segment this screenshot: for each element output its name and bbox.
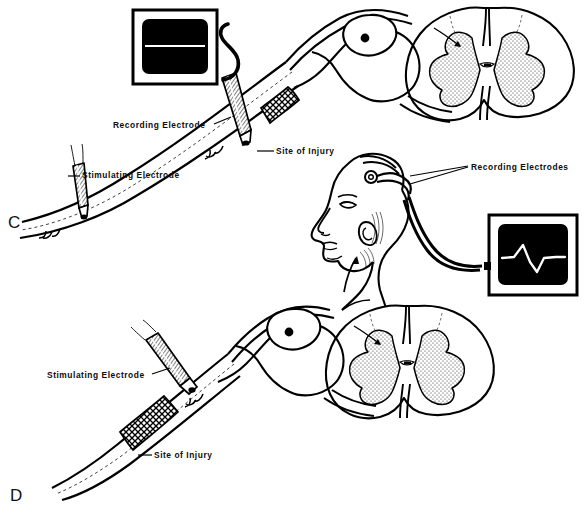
label-recording-electrode-c: Recording Electrode bbox=[113, 121, 205, 129]
oscilloscope-d bbox=[484, 215, 577, 295]
label-recording-electrodes-head: Recording Electrodes bbox=[471, 163, 569, 171]
label-site-of-injury-c: Site of Injury bbox=[276, 147, 334, 155]
scalp-cable bbox=[409, 197, 482, 266]
peripheral-nerve-trunk-c bbox=[20, 62, 298, 238]
stimulating-electrode-c bbox=[71, 144, 88, 219]
illustration-layer bbox=[0, 0, 588, 517]
label-site-of-injury-d: Site of Injury bbox=[154, 451, 212, 459]
spinal-cord-cross-section-c bbox=[406, 8, 574, 121]
panel-letter-c: C bbox=[8, 214, 20, 231]
dorsal-root-ganglion-dot bbox=[361, 34, 370, 43]
site-of-injury-hatch-c bbox=[261, 87, 299, 123]
panel-d-group bbox=[52, 306, 494, 500]
label-stimulating-electrode-d: Stimulating Electrode bbox=[47, 371, 145, 379]
leader-stimulating-electrode-d bbox=[152, 368, 170, 374]
panel-c-group bbox=[20, 8, 574, 239]
nerve-branch-stubs-c bbox=[39, 146, 223, 238]
head-profile-group bbox=[312, 154, 482, 310]
nerve-branch-stubs-d bbox=[185, 394, 203, 407]
leader-recording-electrode bbox=[214, 117, 231, 124]
recording-electrode-c bbox=[222, 73, 251, 146]
dorsal-root-ganglion-dot-d bbox=[285, 328, 294, 337]
site-of-injury-hatch-d bbox=[120, 396, 178, 450]
recording-cable-c bbox=[221, 24, 239, 80]
oscilloscope-c bbox=[133, 10, 217, 84]
spinal-cord-cross-section-d bbox=[326, 306, 494, 419]
label-stimulating-electrode-c: Stimulating Electrode bbox=[82, 171, 180, 179]
leader-recording-electrodes-head-2 bbox=[410, 167, 468, 184]
stimulating-electrode-d bbox=[131, 320, 197, 394]
leader-lines-head bbox=[410, 166, 468, 184]
figure-canvas: Recording Electrode Stimulating Electrod… bbox=[0, 0, 588, 517]
leader-recording-electrodes-head bbox=[410, 166, 468, 176]
panel-letter-d: D bbox=[10, 487, 22, 504]
